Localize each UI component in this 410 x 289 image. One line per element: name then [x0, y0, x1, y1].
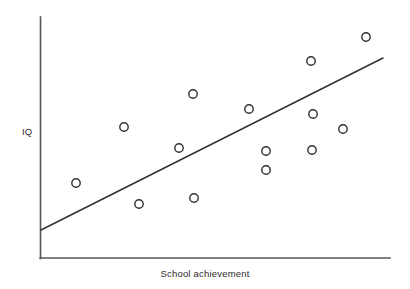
y-axis-label: IQ	[22, 127, 32, 137]
data-point	[72, 179, 80, 187]
plot-canvas	[0, 0, 410, 289]
data-point	[362, 33, 370, 41]
data-point	[309, 110, 317, 118]
data-point	[135, 200, 143, 208]
regression-line	[41, 58, 383, 230]
scatter-plot-figure: IQ School achievement	[0, 0, 410, 289]
data-point	[190, 194, 198, 202]
data-point	[120, 123, 128, 131]
data-point	[262, 147, 270, 155]
data-point	[262, 166, 270, 174]
axes-group	[40, 17, 390, 259]
x-axis-label: School achievement	[0, 269, 410, 279]
trend-line-group	[41, 58, 383, 230]
data-points-group	[72, 33, 370, 208]
data-point	[308, 146, 316, 154]
data-point	[245, 105, 253, 113]
data-point	[189, 90, 197, 98]
data-point	[175, 144, 183, 152]
data-point	[307, 57, 315, 65]
data-point	[339, 125, 347, 133]
